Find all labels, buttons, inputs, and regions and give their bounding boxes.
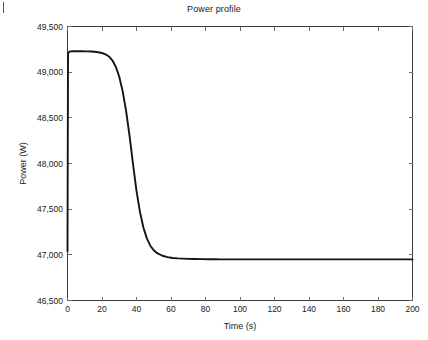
- y-tick-label: 48,500: [37, 113, 63, 123]
- x-tick-label: 0: [65, 304, 70, 314]
- y-tick-label: 46,500: [37, 296, 63, 306]
- y-tick-label: 48,000: [37, 159, 63, 169]
- x-tick-label: 140: [302, 304, 316, 314]
- x-tick-label: 20: [97, 304, 107, 314]
- x-tick-label: 40: [132, 304, 142, 314]
- y-tick-label: 47,000: [37, 250, 63, 260]
- y-tick-label: 47,500: [37, 204, 63, 214]
- x-tick-label: 60: [166, 304, 176, 314]
- x-tick-label: 180: [371, 304, 385, 314]
- x-tick-label: 120: [267, 304, 281, 314]
- x-tick-label: 80: [201, 304, 211, 314]
- data-series-line: [68, 51, 413, 259]
- x-axis-title: Time (s): [224, 321, 257, 331]
- power-profile-chart: 02040608010012014016018020046,50047,0004…: [0, 0, 428, 340]
- x-tick-label: 100: [233, 304, 247, 314]
- x-tick-label: 200: [405, 304, 419, 314]
- y-axis-title: Power (W): [18, 142, 28, 185]
- y-tick-label: 49,000: [37, 67, 63, 77]
- figure-canvas: Power profile 02040608010012014016018020…: [0, 0, 428, 340]
- x-tick-label: 160: [336, 304, 350, 314]
- y-tick-label: 49,500: [37, 22, 63, 32]
